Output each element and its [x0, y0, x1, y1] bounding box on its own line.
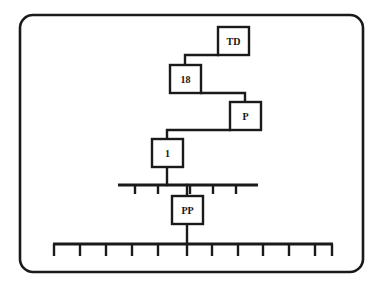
- node-label-one: 1: [165, 148, 170, 159]
- node-box-pp[interactable]: PP: [172, 196, 203, 224]
- flowchart-diagram: TD18P1PP: [0, 0, 385, 286]
- node-box-p[interactable]: P: [230, 102, 261, 130]
- node-box-one[interactable]: 1: [152, 139, 183, 167]
- node-label-eighteen: 18: [181, 74, 191, 85]
- node-label-td: TD: [227, 36, 241, 47]
- figure-canvas: TD18P1PP: [0, 0, 385, 286]
- node-label-p: P: [242, 111, 248, 122]
- node-box-td[interactable]: TD: [218, 27, 249, 55]
- node-label-pp: PP: [181, 205, 193, 216]
- node-box-eighteen[interactable]: 18: [170, 65, 201, 93]
- rounded-border-frame: [20, 15, 363, 272]
